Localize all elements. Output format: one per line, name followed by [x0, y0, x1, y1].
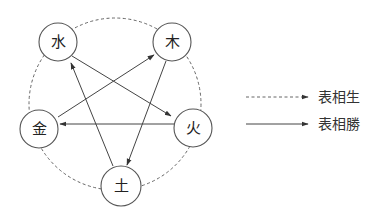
legend-overcoming-label: 表相勝 [318, 116, 360, 132]
node-water: 水 [39, 23, 77, 61]
node-metal-label: 金 [32, 120, 47, 138]
arrow-earth-to-water [71, 63, 113, 166]
node-fire-label: 火 [186, 119, 201, 137]
node-metal: 金 [20, 110, 58, 148]
five-elements-diagram: 水 木 金 火 土 表相生 表相勝 [0, 0, 378, 217]
node-earth: 土 [101, 166, 141, 206]
node-wood: 木 [153, 23, 191, 61]
node-water-label: 水 [51, 33, 66, 51]
legend: 表相生 表相勝 [246, 89, 360, 132]
node-wood-label: 木 [165, 33, 180, 51]
arrow-wood-to-earth [127, 61, 166, 165]
node-earth-label: 土 [114, 177, 129, 195]
legend-generating-label: 表相生 [318, 89, 360, 105]
node-fire: 火 [174, 109, 212, 147]
arrow-metal-to-wood [58, 55, 154, 117]
